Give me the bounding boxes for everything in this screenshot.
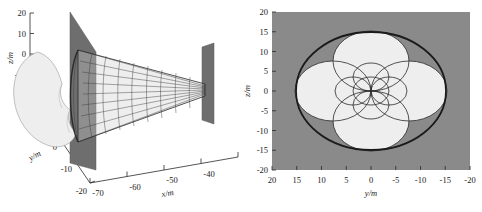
y2d-tick-label-8: -20: [464, 175, 475, 185]
z-tick-label-0: 20: [18, 8, 27, 18]
axis-y-2d: 20 15 10 5 0 -5 -10 -15 -20 y/m: [268, 166, 476, 198]
axis-title-y-2d: y/m: [364, 188, 377, 198]
y2d-tick-label-2: 10: [317, 175, 326, 185]
z2d-tick-label-4: 0: [264, 86, 268, 96]
radiation-lobes-3d: [14, 52, 76, 147]
x-tick-label-3: -40: [203, 169, 214, 179]
y-tick-label-4: -20: [76, 186, 87, 196]
wireframe-cone-3d: [74, 50, 206, 142]
y2d-tick-label-7: -15: [440, 175, 451, 185]
y2d-tick-label-5: -5: [392, 175, 399, 185]
z2d-tick-label-2: 10: [260, 47, 269, 57]
z2d-tick-label-5: -5: [261, 106, 268, 116]
y2d-tick-label-3: 5: [344, 175, 348, 185]
axis-z-2d: 20 15 10 5 0 -5 -10 -15 -20 z/m: [242, 7, 276, 175]
x-tick-label-1: -60: [129, 182, 140, 192]
axis-title-z-3d: z/m: [5, 52, 15, 65]
z2d-tick-label-8: -20: [257, 165, 268, 175]
figure-container: 20 10 0 -10 -20 z/m 20 10 0 -10 -20: [0, 0, 482, 212]
z2d-tick-label-6: -10: [257, 126, 268, 136]
z2d-tick-label-3: 5: [264, 66, 268, 76]
z2d-tick-label-1: 15: [260, 27, 269, 37]
z2d-tick-label-0: 20: [260, 7, 269, 17]
y2d-tick-label-0: 20: [268, 175, 277, 185]
z2d-tick-label-7: -15: [257, 145, 268, 155]
z-tick-label-2: 0: [22, 49, 26, 59]
axis-x-3d: -70 -60 -50 -40 x/m: [90, 152, 238, 199]
axis-title-y-3d: y/m: [26, 148, 42, 163]
axis-title-x-3d: x/m: [160, 187, 175, 199]
panel-2d-cross-section: 20 15 10 5 0 -5 -10 -15 -20 z/m: [241, 0, 482, 212]
x-tick-label-0: -70: [92, 188, 103, 198]
axis-title-z-2d: z/m: [242, 85, 252, 98]
z-tick-label-1: 10: [18, 29, 27, 39]
panel-3d-perspective: 20 10 0 -10 -20 z/m 20 10 0 -10 -20: [0, 0, 241, 212]
y2d-tick-label-6: -10: [415, 175, 426, 185]
y2d-tick-label-1: 15: [293, 175, 302, 185]
y2d-tick-label-4: 0: [369, 175, 373, 185]
y-tick-label-3: -10: [61, 164, 72, 174]
panel-2d-svg: 20 15 10 5 0 -5 -10 -15 -20 z/m: [241, 0, 482, 212]
x-tick-label-2: -50: [166, 175, 177, 185]
panel-3d-svg: 20 10 0 -10 -20 z/m 20 10 0 -10 -20: [0, 0, 241, 212]
